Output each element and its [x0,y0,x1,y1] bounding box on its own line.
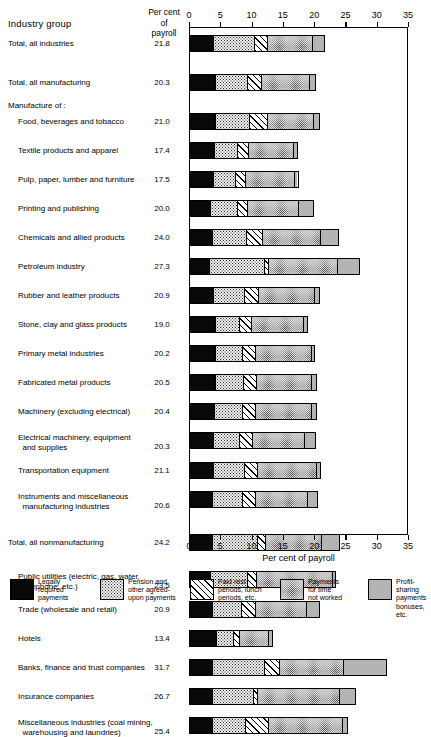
bar-segment-legal [190,463,213,478]
x-axis-ticks-bottom [189,535,408,540]
bar-segment-profit [339,689,355,704]
row-label: Primary metal industries [18,349,158,359]
bar-segment-pension [213,433,239,448]
stacked-bar[interactable] [189,171,299,188]
bar-segment-pension [215,346,242,361]
bar-segment-legal [190,492,212,507]
row-value: 25.4 [140,727,184,736]
x-axis-tick-label: 25 [333,541,357,551]
x-axis-tick-labels-bottom: 05101520253035 [165,541,431,553]
stacked-bar[interactable] [189,113,320,130]
stacked-bar[interactable] [189,200,314,217]
x-axis-tick-label: 5 [208,541,232,551]
row-value: 27.3 [140,262,184,271]
stacked-bar[interactable] [189,74,316,91]
stacked-bar[interactable] [189,491,318,508]
bar-segment-pension [212,689,253,704]
row-value: 19.0 [140,320,184,329]
bar-segment-profit [311,346,315,361]
bar-segment-rest [249,114,267,129]
bar-segment-pension [213,288,244,303]
stacked-bar[interactable] [189,630,273,647]
row-value: 26.7 [140,692,184,701]
row-label: Instruments and miscellaneous manufactur… [18,492,158,511]
stacked-bar[interactable] [189,432,316,449]
row-label: Textile products and apparel [18,146,158,156]
row-value: 31.7 [140,663,184,672]
bar-segment-pension [210,201,236,216]
row-value: 21.0 [140,117,184,126]
bar-segment-profit [320,230,339,245]
legend-label-paid-rest: Paid rest periods, lunch periods, etc. [218,578,262,603]
stacked-bar[interactable] [189,717,348,734]
bar-segment-pension [215,114,249,129]
bar-segment-profit [298,201,313,216]
stacked-bar[interactable] [189,345,315,362]
stacked-bar[interactable] [189,462,321,479]
row-label: Total, all industries [8,39,148,49]
row-value: 20.9 [140,291,184,300]
x-axis-tick-label: 30 [365,541,389,551]
stacked-bar[interactable] [189,287,320,304]
bar-segment-pension [212,230,245,245]
stacked-bar[interactable] [189,403,317,420]
row-label: Fabricated metal products [18,378,158,388]
bar-segment-profit [293,143,297,158]
row-label: Chemicals and allied products [18,233,158,243]
legend-item-profit-sharing: Profit-sharing payments bonuses, etc. [368,578,426,619]
bar-segment-rest [245,718,268,733]
bar-segment-pension [215,75,247,90]
x-axis-tick-label: 20 [302,541,326,551]
bar-segment-legal [190,230,212,245]
legend-swatch-paid-rest [190,579,214,600]
bar-segment-time [245,172,294,187]
x-axis-tick-labels-top: 05101520253035 [165,10,431,22]
header-industry-group: Industry group [8,18,72,29]
stacked-bar[interactable] [189,374,317,391]
bar-segment-rest [237,143,248,158]
stacked-bar[interactable] [189,659,387,676]
x-axis-tick-label: 35 [396,541,420,551]
bar-segment-time [256,375,311,390]
bar-segment-pension [209,259,265,274]
stacked-bar[interactable] [189,142,298,159]
bar-segment-time [257,689,339,704]
row-value: 17.4 [140,146,184,155]
bar-segment-legal [190,288,213,303]
row-value: 17.5 [140,175,184,184]
bar-segment-pension [213,36,254,51]
stacked-bar[interactable] [189,229,339,246]
stacked-bar[interactable] [189,258,360,275]
bar-segment-rest [242,492,256,507]
bar-segment-legal [190,259,209,274]
bar-segment-profit [312,36,324,51]
stacked-bar[interactable] [189,316,308,333]
row-label: Transportation equipment [18,466,158,476]
bar-segment-time [248,143,292,158]
row-value: 21.8 [140,39,184,48]
row-label: Banks, finance and trust companies [18,663,158,673]
bar-segment-profit [343,660,386,675]
bar-segment-time [268,259,337,274]
bar-segment-profit [307,492,317,507]
row-label: Pulp, paper, lumber and furniture [18,175,158,185]
row-value: 20.3 [140,442,184,451]
row-value: 21.1 [140,466,184,475]
legend-label-pension-agreed: Pension and other agreed- upon payments [128,578,176,603]
bar-segment-rest [244,288,258,303]
stacked-bar[interactable] [189,688,356,705]
row-value: 20.6 [140,501,184,510]
legend-item-legally-required: Legally required payments [10,578,68,603]
row-value: 20.0 [140,204,184,213]
row-label: Petroleum industry [18,262,158,272]
row-value: 20.4 [140,407,184,416]
x-axis-tick-label: 10 [240,541,264,551]
legend-item-paid-rest: Paid rest periods, lunch periods, etc. [190,578,262,603]
stacked-bar[interactable] [189,35,325,52]
bar-segment-pension [212,660,264,675]
row-label: Miscellaneous industries (coal mining, w… [18,718,158,737]
legend-label-time-not-worked: Payments for time not worked [308,578,342,603]
bar-segment-profit [313,114,319,129]
x-axis-tick-label: 15 [271,10,295,20]
